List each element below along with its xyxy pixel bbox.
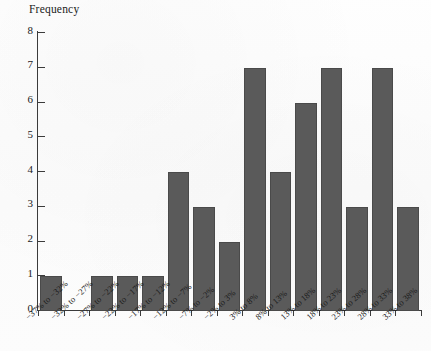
x-axis-labels: −37% to −32%−32% to −27%−27% to −22%−22%… xyxy=(0,311,431,351)
histogram-bar xyxy=(295,103,317,312)
histogram-chart: Frequency 012345678 −37% to −32%−32% to … xyxy=(0,0,431,351)
histogram-bar xyxy=(244,68,266,311)
histogram-bar xyxy=(321,68,343,311)
bars-layer xyxy=(0,0,431,311)
histogram-bar xyxy=(372,68,394,311)
